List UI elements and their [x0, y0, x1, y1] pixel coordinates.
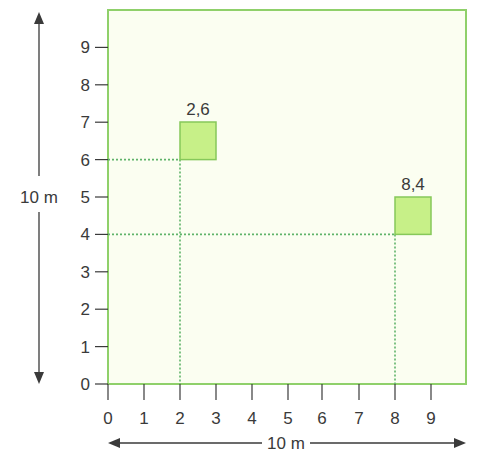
- svg-text:2: 2: [81, 300, 90, 319]
- height-label: 10 m: [20, 188, 58, 207]
- svg-text:8: 8: [390, 409, 399, 428]
- svg-text:5: 5: [81, 188, 90, 207]
- svg-text:6: 6: [81, 151, 90, 170]
- x-tick-labels: 0 1 2 3 4 5 6 7 8 9: [103, 409, 435, 428]
- svg-text:4: 4: [81, 225, 90, 244]
- svg-text:1: 1: [139, 409, 148, 428]
- x-axis: [108, 384, 431, 400]
- coordinate-grid-diagram: 2,6 8,4 0 1 2 3 4 5 6 7 8 9: [0, 0, 477, 462]
- svg-text:5: 5: [283, 409, 292, 428]
- svg-text:0: 0: [103, 409, 112, 428]
- svg-text:9: 9: [426, 409, 435, 428]
- point-square-2-6: [180, 122, 216, 160]
- svg-text:2: 2: [175, 409, 184, 428]
- point-label-2-6: 2,6: [186, 100, 210, 119]
- svg-text:7: 7: [81, 113, 90, 132]
- svg-text:1: 1: [81, 338, 90, 357]
- svg-text:3: 3: [81, 263, 90, 282]
- svg-text:7: 7: [354, 409, 363, 428]
- svg-text:0: 0: [81, 375, 90, 394]
- svg-text:4: 4: [247, 409, 256, 428]
- svg-text:9: 9: [81, 38, 90, 57]
- svg-text:6: 6: [317, 409, 326, 428]
- svg-text:8: 8: [81, 76, 90, 95]
- svg-text:3: 3: [211, 409, 220, 428]
- point-square-8-4: [395, 197, 431, 234]
- y-tick-labels: 0 1 2 3 4 5 6 7 8 9: [81, 38, 90, 394]
- point-label-8-4: 8,4: [401, 175, 425, 194]
- y-axis: [95, 47, 108, 384]
- width-label: 10 m: [267, 434, 305, 453]
